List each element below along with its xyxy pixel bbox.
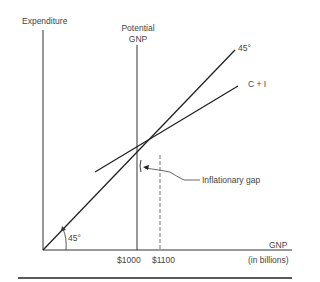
potential-gnp-label-2: GNP — [116, 35, 160, 44]
gap-pointer — [145, 168, 200, 180]
y-axis-label: Expenditure — [22, 17, 67, 26]
x-axis-label: GNP — [269, 241, 287, 250]
line-45-degree — [43, 50, 235, 250]
angle-arc — [63, 229, 66, 250]
line-ci-label: C + I — [248, 80, 266, 89]
gap-bracket — [140, 160, 141, 172]
inflationary-gap-label: Inflationary gap — [202, 176, 260, 185]
tick-1100: $1100 — [152, 256, 175, 265]
tick-1000: $1000 — [117, 256, 141, 265]
potential-gnp-label-1: Potential — [116, 24, 160, 33]
x-axis-unit: (in billions) — [248, 256, 289, 265]
angle-label: 45° — [68, 234, 81, 243]
line-45-label: 45° — [238, 44, 251, 53]
arrow-head — [143, 165, 149, 170]
line-c-plus-i — [95, 86, 238, 172]
